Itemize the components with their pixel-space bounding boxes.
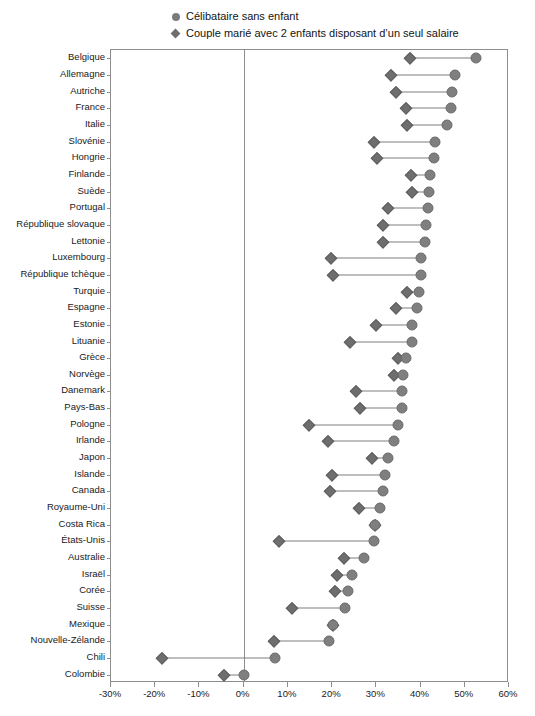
diamond-marker: [401, 119, 413, 131]
x-axis-tick-labels: -30%-20%-10%0%10%20%30%40%50%60%: [0, 688, 535, 702]
diamond-icon: [168, 30, 183, 37]
circle-marker: [424, 186, 435, 197]
category-label: Costa Rica: [0, 518, 105, 529]
circle-marker: [382, 453, 393, 464]
category-label: Finlande: [0, 168, 105, 179]
category-label: Mexique: [0, 618, 105, 629]
circle-marker: [445, 103, 456, 114]
category-tick: [107, 375, 111, 376]
connector-line: [331, 258, 422, 259]
chart-legend: Célibataire sans enfant Couple marié ave…: [168, 8, 528, 42]
category-tick: [107, 625, 111, 626]
category-label: Australie: [0, 551, 105, 562]
diamond-marker: [338, 552, 350, 564]
chart-row: [111, 450, 507, 467]
dumbbell-chart: Célibataire sans enfant Couple marié ave…: [0, 0, 535, 716]
diamond-marker: [354, 402, 366, 414]
category-tick: [107, 175, 111, 176]
connector-line: [406, 108, 450, 109]
category-tick: [107, 225, 111, 226]
connector-line: [333, 274, 421, 275]
category-tick: [107, 408, 111, 409]
chart-row: [111, 233, 507, 250]
category-label: Estonie: [0, 318, 105, 329]
circle-marker: [339, 603, 350, 614]
diamond-marker: [331, 569, 343, 581]
category-tick: [107, 75, 111, 76]
category-label: Colombie: [0, 668, 105, 679]
legend-label-couple-marie: Couple marié avec 2 enfants disposant d’…: [183, 27, 459, 40]
diamond-marker: [406, 186, 418, 198]
category-tick: [107, 358, 111, 359]
x-axis-tick-label: -10%: [187, 688, 209, 700]
diamond-marker: [322, 435, 334, 447]
x-axis-tick: [331, 682, 332, 687]
x-axis-tick-label: 0%: [236, 688, 250, 700]
connector-line: [274, 641, 330, 642]
connector-line: [391, 74, 455, 75]
circle-marker: [327, 619, 338, 630]
category-label: Autriche: [0, 85, 105, 96]
connector-line: [332, 474, 386, 475]
category-tick: [107, 575, 111, 576]
connector-line: [292, 608, 345, 609]
category-tick: [107, 591, 111, 592]
connector-line: [330, 491, 383, 492]
category-tick: [107, 142, 111, 143]
circle-marker: [380, 469, 391, 480]
circle-marker: [416, 253, 427, 264]
connector-line: [279, 541, 375, 542]
diamond-marker: [401, 286, 413, 298]
chart-row: [111, 566, 507, 583]
chart-row: [111, 117, 507, 134]
chart-row: [111, 600, 507, 617]
x-axis-tick: [154, 682, 155, 687]
chart-row: [111, 267, 507, 284]
plot-area: [110, 49, 508, 682]
category-label: Slovénie: [0, 135, 105, 146]
chart-row: [111, 650, 507, 667]
circle-marker: [429, 136, 440, 147]
connector-line: [396, 91, 453, 92]
diamond-marker: [329, 585, 341, 597]
x-axis-tick: [287, 682, 288, 687]
category-tick: [107, 158, 111, 159]
diamond-marker: [385, 69, 397, 81]
chart-row: [111, 466, 507, 483]
x-axis-tick-label: 60%: [498, 688, 517, 700]
category-tick: [107, 491, 111, 492]
x-axis-tick: [508, 682, 509, 687]
circle-marker: [377, 486, 388, 497]
chart-row: [111, 500, 507, 517]
circle-marker: [421, 219, 432, 230]
chart-row: [111, 200, 507, 217]
category-label: Lettonie: [0, 235, 105, 246]
category-tick: [107, 325, 111, 326]
diamond-marker: [268, 635, 280, 647]
category-tick: [107, 475, 111, 476]
circle-marker: [441, 119, 452, 130]
category-tick: [107, 308, 111, 309]
chart-row: [111, 183, 507, 200]
category-tick: [107, 108, 111, 109]
category-tick: [107, 208, 111, 209]
chart-row: [111, 217, 507, 234]
circle-marker: [414, 286, 425, 297]
x-axis-tick-label: -20%: [143, 688, 165, 700]
diamond-marker: [273, 535, 285, 547]
chart-row: [111, 550, 507, 567]
chart-row: [111, 50, 507, 67]
circle-marker: [269, 653, 280, 664]
category-tick: [107, 525, 111, 526]
category-label: Irlande: [0, 434, 105, 445]
circle-marker: [447, 86, 458, 97]
diamond-marker: [350, 385, 362, 397]
category-label: Nouvelle-Zélande: [0, 634, 105, 645]
category-tick: [107, 58, 111, 59]
x-axis-tick-label: 30%: [366, 688, 385, 700]
category-label: Corée: [0, 584, 105, 595]
category-label: Royaume-Uni: [0, 501, 105, 512]
x-axis-tick: [420, 682, 421, 687]
category-label: France: [0, 101, 105, 112]
category-tick: [107, 675, 111, 676]
